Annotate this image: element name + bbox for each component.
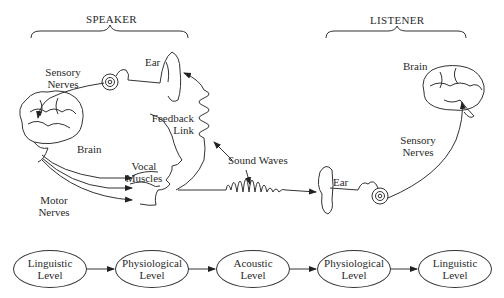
level-line2: Level xyxy=(341,269,366,281)
level-node-physiological-speaker: Physiological Level xyxy=(115,250,189,288)
level-line2: Level xyxy=(240,269,265,281)
listener-header: LISTENER xyxy=(370,14,424,26)
speaker-ear-label: Ear xyxy=(145,56,160,68)
speaker-ear-icon xyxy=(102,52,181,101)
speaker-brain-icon xyxy=(20,91,83,162)
level-node-acoustic: Acoustic Level xyxy=(216,250,290,288)
level-node-linguistic-speaker: Linguistic Level xyxy=(13,250,87,288)
level-line1: Physiological xyxy=(122,257,182,269)
label-line: Nerves xyxy=(43,78,83,90)
sound-wave xyxy=(178,179,316,192)
label-line: Feedback xyxy=(150,112,194,124)
level-line1: Linguistic xyxy=(28,257,73,269)
label-line: Motor xyxy=(36,194,72,206)
level-line1: Linguistic xyxy=(433,257,478,269)
feedback-link-label: Feedback Link xyxy=(150,112,194,136)
label-line: Nerves xyxy=(36,206,72,218)
sound-waves-label: Sound Waves xyxy=(228,154,288,166)
level-line2: Level xyxy=(37,269,62,281)
label-line: Sensory xyxy=(43,66,83,78)
label-line: Muscles xyxy=(124,172,164,184)
label-line: Vocal xyxy=(124,160,164,172)
speaker-brace xyxy=(31,25,188,38)
level-line2: Level xyxy=(139,269,164,281)
listener-ear-icon xyxy=(318,166,388,214)
level-line1: Physiological xyxy=(324,257,384,269)
vocal-muscles-label: Vocal Muscles xyxy=(124,160,164,184)
level-line2: Level xyxy=(442,269,467,281)
listener-brain-label: Brain xyxy=(403,60,427,72)
feedback-wave xyxy=(199,90,209,138)
listener-sensory-nerves-label: Sensory Nerves xyxy=(398,134,438,158)
listener-ear-label: Ear xyxy=(333,176,348,188)
speaker-sensory-nerves-label: Sensory Nerves xyxy=(43,66,83,90)
label-line: Nerves xyxy=(398,146,438,158)
level-node-linguistic-listener: Linguistic Level xyxy=(418,250,492,288)
label-line: Link xyxy=(150,124,194,136)
level-node-physiological-listener: Physiological Level xyxy=(317,250,391,288)
label-line: Sensory xyxy=(398,134,438,146)
level-line1: Acoustic xyxy=(233,257,272,269)
listener-brace xyxy=(326,26,466,38)
speaker-header: SPEAKER xyxy=(86,13,137,25)
motor-nerves-label: Motor Nerves xyxy=(36,194,72,218)
listener-brain-icon xyxy=(423,66,484,118)
speaker-brain-label: Brain xyxy=(77,143,101,155)
